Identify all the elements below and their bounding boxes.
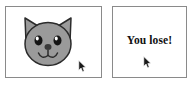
result-message: You lose! xyxy=(113,34,186,46)
screenshot-root: You lose! xyxy=(0,0,192,86)
cat-face-panel[interactable] xyxy=(5,6,102,78)
cat-nose xyxy=(45,44,52,50)
mouse-pointer-svg xyxy=(143,56,152,69)
mouse-pointer-shape xyxy=(144,57,151,68)
cat-right-eye xyxy=(54,36,62,46)
mouse-pointer-icon xyxy=(143,55,152,68)
message-panel[interactable]: You lose! xyxy=(112,6,187,78)
mouse-pointer-icon xyxy=(78,59,87,72)
cat-face-icon xyxy=(18,13,78,71)
cat-left-eye-highlight xyxy=(36,37,39,41)
cat-left-eye xyxy=(35,36,43,46)
cat-face-svg xyxy=(18,13,78,71)
mouse-pointer-svg xyxy=(78,60,87,73)
cat-right-eye-highlight xyxy=(55,37,58,41)
mouse-pointer-shape xyxy=(79,61,86,72)
